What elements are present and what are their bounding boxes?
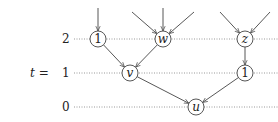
level-label: 0 (62, 100, 70, 114)
level-label: 2 (62, 32, 70, 46)
node-v: v (122, 65, 138, 81)
node-u: u (188, 99, 204, 115)
axis-label: t = (30, 66, 49, 80)
node-n1b: 1 (237, 65, 253, 81)
edge-arrow (169, 12, 194, 34)
graph-diagram: 210 1wzv1u t = (0, 0, 278, 122)
node-n1a: 1 (90, 31, 106, 47)
node-w: w (155, 31, 171, 47)
node-label: v (127, 66, 134, 80)
edge-arrow (137, 77, 189, 104)
node-label: 1 (241, 66, 249, 80)
edge-arrow (250, 12, 270, 33)
node-label: 1 (94, 32, 102, 46)
node-label: z (241, 32, 249, 46)
level-label: 1 (62, 66, 70, 80)
edge-arrow (136, 45, 158, 68)
node-label: u (192, 100, 200, 114)
edge-arrow (132, 12, 157, 34)
edge-arrow (203, 78, 239, 103)
edge-arrow (220, 12, 240, 33)
node-z: z (237, 31, 253, 47)
node-label: w (158, 32, 169, 46)
edge-arrow (103, 45, 124, 67)
